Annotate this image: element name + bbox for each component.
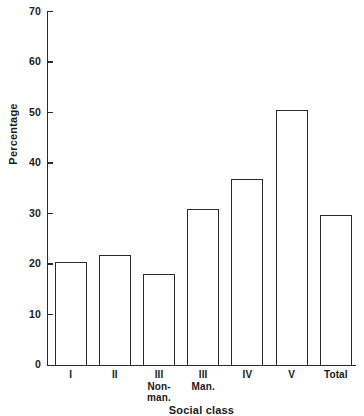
x-axis-tick-label-line: III [181,369,225,381]
bar [187,209,219,366]
bar [276,110,308,366]
bar-chart: Percentage 010203040506070 IIIIIINon-man… [0,0,364,416]
x-axis-tick-label: IV [225,369,269,381]
x-axis-tick-label-line: II [93,369,137,381]
x-axis-tick-label-line: IV [225,369,269,381]
x-axis-tick-label-line: Man. [181,381,225,393]
bar [143,274,175,365]
x-axis-tick-label: IIIMan. [181,369,225,392]
x-axis-tick-label-line: man. [137,392,181,404]
bar [55,262,87,365]
x-axis-tick-label-line: Total [314,369,358,381]
x-axis-tick-label: II [93,369,137,381]
x-axis-tick-label: I [49,369,93,381]
bar [231,179,263,365]
x-axis-tick-label-line: III [137,369,181,381]
x-axis-tick-label-line: Non- [137,381,181,393]
x-axis-tick-label: Total [314,369,358,381]
x-axis-tick-label-line: I [49,369,93,381]
x-axis-tick-label: IIINon-man. [137,369,181,404]
x-axis-line [47,365,356,367]
x-axis-title: Social class [47,404,356,416]
plot-area: IIIIIINon-man.IIIMan.IVVTotal [0,0,364,416]
bar [320,215,352,366]
bar [99,255,131,365]
x-axis-tick-label-line: V [270,369,314,381]
x-axis-tick-label: V [270,369,314,381]
